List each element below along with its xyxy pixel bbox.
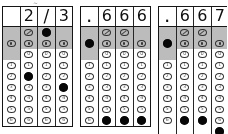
written-answer-cell[interactable]: 6 <box>116 7 134 26</box>
written-answer-cell[interactable] <box>3 7 21 26</box>
bubble-digit-3[interactable]: 3 <box>7 84 16 91</box>
bubble-digit-6[interactable]: 6 <box>7 117 16 124</box>
bubble-digit-1[interactable]: 1 <box>42 62 51 69</box>
bubble-digit-4[interactable]: 4 <box>85 95 94 102</box>
bubble-digit-3[interactable]: 3 <box>102 84 111 91</box>
bubble-decimal-point[interactable] <box>137 40 146 47</box>
bubble-digit-1[interactable]: 1 <box>85 62 94 69</box>
bubble-digit-3[interactable]: 3 <box>198 84 207 91</box>
bubble-digit-1[interactable]: 1 <box>215 62 224 69</box>
bubble-digit-5[interactable]: 5 <box>198 106 207 113</box>
bubble-digit-2[interactable]: 2 <box>102 73 111 80</box>
bubble-digit-7[interactable] <box>215 127 224 134</box>
bubble-digit-1[interactable]: 1 <box>163 62 172 69</box>
written-answer-cell[interactable]: 3 <box>56 7 73 26</box>
bubble-decimal-point[interactable] <box>180 40 189 47</box>
bubble-digit-5[interactable]: 5 <box>163 106 172 113</box>
written-answer-cell[interactable]: 6 <box>99 7 117 26</box>
bubble-digit-3[interactable]: 3 <box>59 83 68 91</box>
bubble-digit-2[interactable]: 2 <box>7 73 16 80</box>
bubble-digit-6[interactable]: 6 <box>59 117 68 124</box>
bubble-digit-1[interactable]: 1 <box>7 62 16 69</box>
bubble-digit-2[interactable]: 2 <box>120 73 129 80</box>
bubble-digit-6[interactable]: 6 <box>120 116 129 124</box>
bubble-digit-3[interactable]: 3 <box>180 84 189 91</box>
bubble-digit-4[interactable]: 4 <box>215 95 224 102</box>
bubble-digit-6[interactable]: 6 <box>163 117 172 124</box>
bubble-decimal-point[interactable] <box>85 39 94 47</box>
bubble-digit-4[interactable]: 4 <box>24 95 33 102</box>
bubble-digit-2[interactable]: 2 <box>198 73 207 80</box>
bubble-decimal-point[interactable] <box>7 40 16 47</box>
bubble-digit-6[interactable]: 6 <box>24 117 33 124</box>
written-answer-row[interactable]: .666 <box>81 7 150 27</box>
bubble-digit-6[interactable]: 6 <box>215 117 224 124</box>
bubble-digit-0[interactable]: 0 <box>198 51 207 58</box>
bubble-decimal-point[interactable] <box>120 40 129 47</box>
bubble-digit-0[interactable]: 0 <box>102 51 111 58</box>
written-answer-cell[interactable]: . <box>81 7 99 26</box>
bubble-decimal-point[interactable] <box>42 40 51 47</box>
bubble-digit-1[interactable]: 1 <box>137 62 146 69</box>
bubble-digit-6[interactable]: 6 <box>42 117 51 124</box>
bubble-digit-2[interactable]: 2 <box>85 73 94 80</box>
bubble-digit-2[interactable]: 2 <box>137 73 146 80</box>
bubble-digit-4[interactable]: 4 <box>163 95 172 102</box>
bubble-decimal-point[interactable] <box>198 40 207 47</box>
bubble-digit-6[interactable]: 6 <box>198 116 207 124</box>
bubble-digit-3[interactable]: 3 <box>163 84 172 91</box>
bubble-digit-4[interactable]: 4 <box>120 95 129 102</box>
bubble-digit-6[interactable]: 6 <box>85 117 94 124</box>
bubble-digit-5[interactable]: 5 <box>24 106 33 113</box>
bubble-digit-0[interactable]: 0 <box>215 51 224 58</box>
bubble-digit-3[interactable]: 3 <box>137 84 146 91</box>
bubble-digit-2[interactable]: 2 <box>59 73 68 80</box>
bubble-digit-3[interactable]: 3 <box>215 84 224 91</box>
bubble-digit-0[interactable]: 0 <box>42 51 51 58</box>
bubble-digit-2[interactable]: 2 <box>163 73 172 80</box>
bubble-digit-2[interactable]: 2 <box>180 73 189 80</box>
bubble-digit-2[interactable]: 2 <box>24 72 33 80</box>
bubble-digit-5[interactable]: 5 <box>180 106 189 113</box>
bubble-digit-5[interactable]: 5 <box>85 106 94 113</box>
bubble-digit-0[interactable]: 0 <box>120 51 129 58</box>
written-answer-cell[interactable]: 7 <box>212 7 228 26</box>
bubble-digit-1[interactable]: 1 <box>180 62 189 69</box>
bubble-digit-0[interactable]: 0 <box>137 51 146 58</box>
bubble-fraction-bar[interactable] <box>180 29 189 36</box>
bubble-digit-3[interactable]: 3 <box>24 84 33 91</box>
bubble-digit-3[interactable]: 3 <box>120 84 129 91</box>
bubble-decimal-point[interactable] <box>102 40 111 47</box>
bubble-digit-2[interactable]: 2 <box>215 73 224 80</box>
bubble-digit-0[interactable]: 0 <box>24 51 33 58</box>
bubble-digit-4[interactable]: 4 <box>198 95 207 102</box>
bubble-digit-4[interactable]: 4 <box>59 95 68 102</box>
bubble-digit-4[interactable]: 4 <box>42 95 51 102</box>
written-answer-cell[interactable]: 2 <box>21 7 39 26</box>
bubble-digit-4[interactable]: 4 <box>180 95 189 102</box>
written-answer-cell[interactable]: . <box>159 7 177 26</box>
bubble-digit-1[interactable]: 1 <box>120 62 129 69</box>
bubble-digit-4[interactable]: 4 <box>137 95 146 102</box>
bubble-fraction-bar[interactable] <box>24 29 33 36</box>
written-answer-cell[interactable]: 6 <box>177 7 195 26</box>
bubble-digit-4[interactable]: 4 <box>102 95 111 102</box>
bubble-digit-6[interactable]: 6 <box>180 116 189 124</box>
bubble-fraction-bar[interactable] <box>102 29 111 36</box>
bubble-digit-4[interactable]: 4 <box>7 95 16 102</box>
bubble-digit-5[interactable]: 5 <box>42 106 51 113</box>
bubble-decimal-point[interactable] <box>59 40 68 47</box>
bubble-digit-5[interactable]: 5 <box>59 106 68 113</box>
bubble-fraction-bar[interactable] <box>198 29 207 36</box>
bubble-digit-0[interactable]: 0 <box>59 51 68 58</box>
bubble-digit-5[interactable]: 5 <box>7 106 16 113</box>
written-answer-cell[interactable]: / <box>38 7 56 26</box>
bubble-digit-1[interactable]: 1 <box>24 62 33 69</box>
bubble-digit-1[interactable]: 1 <box>198 62 207 69</box>
bubble-digit-1[interactable]: 1 <box>59 62 68 69</box>
bubble-digit-5[interactable]: 5 <box>137 106 146 113</box>
bubble-digit-5[interactable]: 5 <box>102 106 111 113</box>
written-answer-cell[interactable]: 6 <box>194 7 212 26</box>
bubble-digit-0[interactable]: 0 <box>180 51 189 58</box>
bubble-digit-1[interactable]: 1 <box>102 62 111 69</box>
